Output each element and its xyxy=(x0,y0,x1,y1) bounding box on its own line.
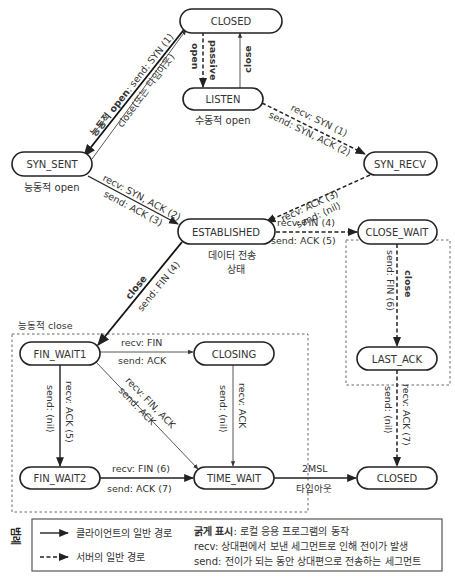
legend: 범례 클라이언트의 일반 경로 서버의 일반 경로 굵게 표시: 로컬 응용 프… xyxy=(10,519,442,571)
edge-syn-sent-to-established xyxy=(88,176,178,224)
svg-text:open: open xyxy=(190,43,201,70)
state-fin-wait1: FIN_WAIT1 xyxy=(20,342,100,365)
svg-text:passive: passive xyxy=(208,40,219,80)
svg-text:SYN_RECV: SYN_RECV xyxy=(374,159,426,171)
state-syn-recv: SYN_RECV xyxy=(364,152,437,175)
label-fw2-tw-recv: recv: FIN (6) xyxy=(112,463,170,474)
svg-text:send: ⟨nil⟩: send: ⟨nil⟩ xyxy=(218,385,229,433)
state-established: ESTABLISHED xyxy=(178,219,275,244)
label-fw2-tw-send: send: ACK (7) xyxy=(107,483,172,494)
label-closing-tw-recv: recv: ACK xyxy=(237,383,248,429)
label-listen-close: close xyxy=(242,45,253,73)
svg-text:FIN_WAIT1: FIN_WAIT1 xyxy=(34,349,87,361)
svg-text:recv: ACK (5): recv: ACK (5) xyxy=(64,381,75,443)
state-closing: CLOSING xyxy=(194,342,274,365)
state-closed-top: CLOSED xyxy=(180,9,282,33)
svg-text:능동적 open: send: SYN (1): 능동적 open: send: SYN (1) xyxy=(88,31,176,138)
syn-sent-caption: 능동적 open xyxy=(24,182,79,193)
legend-bold-desc: 굵게 표시: 로컬 응용 프로그램의 동작 xyxy=(194,525,349,537)
state-closed-bottom: CLOSED xyxy=(357,467,437,489)
svg-text:send: ⟨nil⟩: send: ⟨nil⟩ xyxy=(45,385,56,433)
svg-text:CLOSING: CLOSING xyxy=(212,349,257,360)
label-open: open xyxy=(190,43,201,70)
label-fw1-fw2-send: send: ⟨nil⟩ xyxy=(45,385,56,433)
label-fw1-fw2-recv: recv: ACK (5) xyxy=(64,381,75,443)
listen-caption: 수동적 open xyxy=(195,115,250,126)
svg-text:SYN_SENT: SYN_SENT xyxy=(26,159,78,171)
active-close-group-label: 능동적 close xyxy=(18,320,73,331)
state-syn-sent: SYN_SENT xyxy=(12,152,92,176)
legend-title: 범례 xyxy=(10,527,22,545)
edge-established-to-fin-wait1 xyxy=(98,242,182,345)
edge-closed-to-syn-sent xyxy=(84,22,190,156)
svg-text:CLOSED: CLOSED xyxy=(377,473,418,484)
label-closing-tw-send: send: ⟨nil⟩ xyxy=(218,385,229,433)
svg-text:send: ⟨nil⟩: send: ⟨nil⟩ xyxy=(383,386,394,434)
state-time-wait: TIME_WAIT xyxy=(194,467,274,489)
svg-text:CLOSE_WAIT: CLOSE_WAIT xyxy=(366,227,430,239)
label-tw-timeout: 타임아웃 xyxy=(296,483,332,494)
svg-text:close: close xyxy=(403,270,414,298)
legend-send-desc: send: 전이가 되는 동안 상대편으로 전송하는 세그먼트 xyxy=(194,555,421,567)
label-fw1-closing-send: send: ACK xyxy=(118,355,167,366)
label-passive: passive xyxy=(208,40,219,80)
svg-text:CLOSED: CLOSED xyxy=(211,16,252,27)
svg-text:FIN_WAIT2: FIN_WAIT2 xyxy=(34,473,87,485)
state-listen: LISTEN xyxy=(183,88,263,110)
legend-client-path: 클라이언트의 일반 경로 xyxy=(76,527,172,539)
label-est-close-wait-send: send: ACK (5) xyxy=(271,235,336,246)
label-last-ack-closed-recv: recv: ACK (7) xyxy=(401,384,412,446)
svg-text:범례: 범례 xyxy=(10,527,22,545)
label-active-open: 능동적 open: send: SYN (1) xyxy=(88,31,176,138)
state-last-ack: LAST_ACK xyxy=(357,347,437,370)
svg-text:recv: ACK (7): recv: ACK (7) xyxy=(401,384,412,446)
label-close-wait-send-fin: send: FIN (6) xyxy=(385,250,396,311)
legend-server-path: 서버의 일반 경로 xyxy=(76,551,145,563)
label-est-close-wait-recv: recv: FIN (4) xyxy=(277,217,335,228)
svg-text:LAST_ACK: LAST_ACK xyxy=(372,354,423,366)
label-close-wait-close: close xyxy=(403,270,414,298)
state-fin-wait2: FIN_WAIT2 xyxy=(20,467,100,489)
svg-text:close: close xyxy=(242,45,253,73)
tcp-state-diagram: 수동적 close 능동적 close 능동적 open: send: SYN … xyxy=(0,0,455,578)
established-caption-line2: 상태 xyxy=(227,264,245,275)
svg-text:ESTABLISHED: ESTABLISHED xyxy=(192,227,260,238)
state-close-wait: CLOSE_WAIT xyxy=(358,220,437,244)
svg-text:send: FIN (6): send: FIN (6) xyxy=(385,250,396,311)
svg-text:LISTEN: LISTEN xyxy=(206,94,241,105)
label-tw-2msl: 2MSL xyxy=(302,463,328,474)
svg-text:recv: ACK: recv: ACK xyxy=(237,383,248,429)
svg-text:TIME_WAIT: TIME_WAIT xyxy=(206,473,262,485)
legend-recv-desc: recv: 상대편에서 보낸 세그먼트로 인해 전이가 발생 xyxy=(194,540,408,552)
established-caption-line1: 데이터 전송 xyxy=(208,250,256,261)
label-last-ack-closed-send: send: ⟨nil⟩ xyxy=(383,386,394,434)
label-fw1-closing-recv: recv: FIN xyxy=(121,337,162,348)
